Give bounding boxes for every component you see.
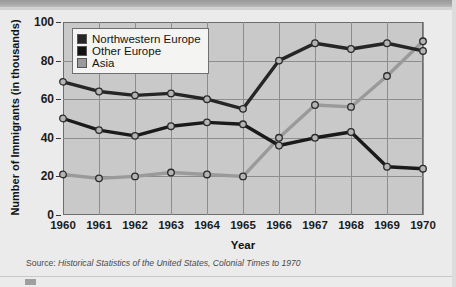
- data-point-marker: [240, 106, 247, 113]
- source-citation: Historical Statistics of the United Stat…: [58, 258, 301, 268]
- x-axis-ticks: 1960196119621963196419651966196719681969…: [63, 219, 423, 235]
- data-point-marker: [96, 175, 103, 182]
- data-point-marker: [348, 129, 355, 136]
- y-axis-tick-mark: [56, 61, 61, 62]
- x-axis-title: Year: [63, 239, 423, 251]
- data-point-marker: [420, 165, 427, 172]
- data-point-marker: [168, 90, 175, 97]
- right-edge-strip: [452, 0, 456, 287]
- legend-item: Northwestern Europe: [77, 33, 201, 45]
- data-point-marker: [168, 123, 175, 130]
- y-axis-tick-mark: [56, 138, 61, 139]
- x-axis-tick-label: 1965: [230, 219, 256, 231]
- data-point-marker: [312, 40, 319, 47]
- data-point-marker: [348, 46, 355, 53]
- legend-label: Other Europe: [92, 45, 161, 57]
- y-axis-tick-mark: [56, 22, 61, 23]
- data-point-marker: [420, 48, 427, 55]
- data-point-marker: [60, 115, 67, 122]
- x-axis-tick-label: 1968: [338, 219, 364, 231]
- legend-label: Asia: [92, 57, 114, 69]
- data-point-marker: [168, 169, 175, 176]
- x-axis-tick-label: 1962: [122, 219, 148, 231]
- bottom-divider: [0, 276, 456, 277]
- data-point-marker: [384, 163, 391, 170]
- top-decorative-bar: [0, 0, 456, 7]
- bottom-marker: [25, 279, 36, 285]
- data-point-marker: [60, 79, 67, 86]
- y-axis-tick-label: 20: [41, 170, 54, 182]
- legend: Northwestern EuropeOther EuropeAsia: [72, 28, 209, 74]
- legend-item: Asia: [77, 57, 201, 69]
- data-point-marker: [240, 121, 247, 128]
- legend-swatch: [77, 58, 87, 68]
- y-axis-tick-mark: [56, 215, 61, 216]
- legend-swatch: [77, 34, 87, 44]
- data-point-marker: [96, 127, 103, 134]
- data-point-marker: [132, 92, 139, 99]
- y-axis-tick-label: 40: [41, 132, 54, 144]
- data-point-marker: [384, 40, 391, 47]
- y-axis-tick-label: 100: [34, 16, 54, 28]
- y-axis-tick-label: 60: [41, 93, 54, 105]
- data-point-marker: [204, 119, 211, 126]
- data-point-marker: [204, 96, 211, 103]
- legend-swatch: [77, 46, 87, 56]
- data-point-marker: [276, 135, 283, 142]
- legend-item: Other Europe: [77, 45, 201, 57]
- y-axis-ticks: 020406080100: [0, 0, 63, 237]
- data-point-marker: [204, 171, 211, 178]
- x-axis-tick-label: 1963: [158, 219, 184, 231]
- x-axis-tick-label: 1961: [86, 219, 112, 231]
- data-point-marker: [420, 38, 427, 45]
- top-decorative-bar-light: [0, 7, 456, 10]
- data-point-marker: [132, 133, 139, 140]
- x-axis-tick-label: 1964: [194, 219, 220, 231]
- x-axis-tick-label: 1960: [50, 219, 76, 231]
- x-axis-tick-label: 1969: [374, 219, 400, 231]
- data-point-marker: [384, 73, 391, 80]
- y-axis-tick-label: 80: [41, 55, 54, 67]
- data-point-marker: [240, 173, 247, 180]
- data-point-marker: [96, 88, 103, 95]
- data-point-marker: [312, 102, 319, 109]
- data-point-marker: [276, 57, 283, 64]
- legend-label: Northwestern Europe: [92, 33, 201, 45]
- data-point-marker: [348, 104, 355, 111]
- x-axis-tick-label: 1970: [410, 219, 436, 231]
- chart-figure: Number of Immigrants (in thousands) 0204…: [0, 0, 456, 287]
- y-axis-tick-mark: [56, 99, 61, 100]
- x-axis-tick-label: 1967: [302, 219, 328, 231]
- data-point-marker: [312, 135, 319, 142]
- data-point-marker: [276, 142, 283, 149]
- data-point-marker: [60, 171, 67, 178]
- x-axis-tick-label: 1966: [266, 219, 292, 231]
- source-note: Source: Historical Statistics of the Uni…: [26, 258, 301, 268]
- source-prefix: Source:: [26, 258, 58, 268]
- data-point-marker: [132, 173, 139, 180]
